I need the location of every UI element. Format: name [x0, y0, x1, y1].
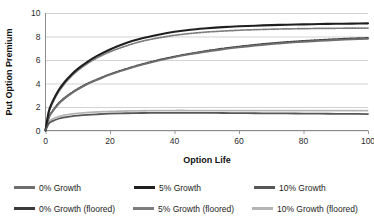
chart-container: Put Option Premium 0246810 020406080100 … — [0, 0, 374, 220]
legend-label-10-growth: 10% Growth — [279, 183, 326, 193]
y-tick-label: 10 — [31, 8, 41, 18]
y-tick-labels: 0246810 — [31, 8, 41, 136]
y-tick-label: 8 — [36, 32, 41, 42]
x-tick-labels: 020406080100 — [43, 136, 374, 146]
x-tick-label: 60 — [234, 136, 244, 146]
legend-swatch-0-growth — [14, 186, 35, 188]
legend-item-0-growth-floored[interactable]: 0% Growth (floored) — [14, 204, 133, 214]
x-tick-label: 40 — [170, 136, 180, 146]
legend-item-0-growth[interactable]: 0% Growth — [14, 183, 128, 193]
y-axis-title: Put Option Premium — [4, 28, 14, 115]
legend-swatch-0-growth-floored — [14, 207, 35, 209]
legend-label-5-growth: 5% Growth — [159, 183, 201, 193]
x-axis-title: Option Life — [183, 155, 231, 165]
plot-area: Put Option Premium 0246810 020406080100 … — [0, 0, 374, 170]
x-tick-label: 20 — [105, 136, 115, 146]
legend-row-1: 0% Growth 5% Growth 10% Growth — [0, 178, 374, 197]
legend-label-0-growth-floored: 0% Growth (floored) — [39, 204, 115, 214]
legend-swatch-5-growth-floored — [133, 207, 154, 209]
y-tick-label: 0 — [36, 126, 41, 136]
legend-item-5-growth[interactable]: 5% Growth — [134, 183, 248, 193]
legend-label-10-growth-floored: 10% Growth (floored) — [277, 204, 358, 214]
chart-legend: 0% Growth 5% Growth 10% Growth 0% Growth… — [0, 176, 374, 220]
legend-swatch-10-growth-floored — [252, 207, 273, 209]
series-line — [46, 39, 369, 131]
y-tick-label: 6 — [36, 55, 41, 65]
series-lines — [46, 23, 369, 130]
legend-swatch-5-growth — [134, 186, 155, 188]
legend-label-0-growth: 0% Growth — [39, 183, 81, 193]
legend-item-5-growth-floored[interactable]: 5% Growth (floored) — [133, 204, 252, 214]
y-tick-label: 4 — [36, 79, 41, 89]
x-tick-label: 100 — [361, 136, 374, 146]
legend-item-10-growth[interactable]: 10% Growth — [254, 183, 368, 193]
y-tick-label: 2 — [36, 102, 41, 112]
line-chart-svg: Put Option Premium 0246810 020406080100 … — [0, 0, 374, 170]
legend-item-10-growth-floored[interactable]: 10% Growth (floored) — [252, 204, 371, 214]
legend-swatch-10-growth — [254, 186, 275, 188]
x-tick-label: 0 — [43, 136, 48, 146]
x-tick-label: 80 — [299, 136, 309, 146]
legend-label-5-growth-floored: 5% Growth (floored) — [158, 204, 234, 214]
series-line — [46, 113, 369, 131]
legend-row-2: 0% Growth (floored) 5% Growth (floored) … — [0, 199, 374, 218]
